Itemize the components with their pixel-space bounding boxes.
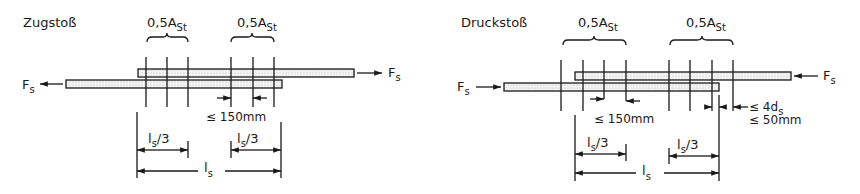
svg-text:ls/3: ls/3 <box>148 131 170 149</box>
compression-splice-diagram: Druckstoß 0,5ASt 0,5ASt Fs Fs <box>457 15 836 182</box>
svg-text:Fs: Fs <box>457 79 470 97</box>
svg-text:ls: ls <box>642 163 651 182</box>
group-label-right: 0,5ASt <box>237 15 277 33</box>
brace-left <box>563 36 626 45</box>
svg-text:0,5ASt: 0,5ASt <box>237 15 277 33</box>
group-label-right: 0,5ASt <box>686 15 726 33</box>
group-label-left: 0,5ASt <box>578 15 618 33</box>
tension-splice-title: Zugstoß <box>23 15 76 30</box>
end-distance-dimension: ≤ 4ds ≤ 50mm <box>706 100 802 127</box>
lap-length-dimensions: ls/3 ls/3 ls <box>575 95 719 182</box>
svg-text:ls/3: ls/3 <box>677 137 699 155</box>
spacing-dimension: ≤ 150mm <box>590 99 654 126</box>
svg-text:≤ 50mm: ≤ 50mm <box>749 113 802 127</box>
svg-text:0,5ASt: 0,5ASt <box>686 15 726 33</box>
tension-splice-diagram: Zugstoß 0,5ASt 0,5ASt Fs <box>22 15 401 179</box>
svg-text:ls/3: ls/3 <box>237 131 259 149</box>
svg-text:≤ 150mm: ≤ 150mm <box>206 110 266 124</box>
force-right: Fs <box>794 68 836 86</box>
spacing-dimension: ≤ 150mm <box>206 98 267 124</box>
lower-rebar <box>66 80 282 88</box>
upper-rebar <box>575 72 791 80</box>
upper-rebar <box>138 69 354 77</box>
svg-text:0,5ASt: 0,5ASt <box>578 15 618 33</box>
svg-text:Fs: Fs <box>22 77 35 95</box>
svg-text:ls/3: ls/3 <box>587 135 609 153</box>
force-left: Fs <box>22 77 63 95</box>
svg-text:ls: ls <box>204 160 213 179</box>
svg-text:≤ 150mm: ≤ 150mm <box>594 112 654 126</box>
svg-text:0,5ASt: 0,5ASt <box>147 15 187 33</box>
lower-rebar <box>504 83 719 91</box>
group-label-left: 0,5ASt <box>147 15 187 33</box>
svg-text:Fs: Fs <box>823 68 836 86</box>
force-left: Fs <box>457 79 501 97</box>
brace-right <box>231 33 274 42</box>
svg-text:Fs: Fs <box>388 65 401 83</box>
lap-splice-diagrams: Zugstoß 0,5ASt 0,5ASt Fs <box>0 0 860 194</box>
compression-splice-title: Druckstoß <box>461 15 527 30</box>
force-right: Fs <box>357 65 401 83</box>
brace-left <box>147 33 188 42</box>
brace-right <box>670 36 733 45</box>
